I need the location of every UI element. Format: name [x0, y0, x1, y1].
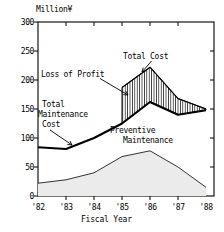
y-axis-ticks	[34, 22, 38, 196]
series-breakdown-maintenance	[38, 151, 206, 196]
chart-plot	[0, 0, 224, 232]
chart-container: Million¥ 300 250 200 150 100 50 0 '82 '8…	[0, 0, 224, 232]
